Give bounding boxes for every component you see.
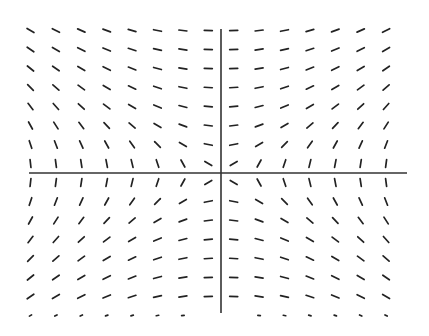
slope-segment — [53, 66, 60, 71]
slope-segment — [179, 219, 187, 222]
slope-segment — [103, 295, 110, 298]
slope-segment — [306, 257, 313, 260]
slope-segment — [103, 276, 110, 280]
slope-segment — [179, 199, 186, 203]
slope-segment — [306, 86, 313, 89]
slope-segment — [385, 141, 388, 148]
slope-segment — [105, 198, 109, 205]
slope-segment — [281, 123, 288, 127]
slope-segment — [55, 315, 57, 316]
slope-segment — [179, 142, 186, 146]
slope-segment — [154, 67, 162, 69]
slope-segment — [205, 180, 212, 184]
slope-segment — [360, 160, 361, 168]
slope-segment — [383, 104, 388, 110]
slope-segment — [306, 48, 314, 50]
slope-segment — [332, 48, 339, 51]
slope-segment — [255, 258, 263, 260]
slope-segment — [385, 315, 387, 316]
slope-segment — [128, 257, 135, 260]
slope-segment — [257, 179, 261, 186]
slope-segment — [333, 218, 338, 224]
slope-segment — [78, 295, 85, 299]
slope-segment — [53, 85, 59, 90]
slope-segment — [357, 275, 364, 279]
slope-segment — [383, 256, 389, 261]
slope-segment — [383, 275, 390, 280]
slope-segment — [383, 66, 390, 71]
slope-segment — [53, 104, 58, 110]
slope-segment — [129, 218, 135, 223]
slope-segment — [257, 160, 261, 167]
slope-segment — [281, 105, 288, 108]
slope-segment — [154, 296, 162, 298]
slope-segment — [255, 296, 263, 297]
slope-segment — [30, 160, 31, 168]
slope-segment — [106, 160, 107, 168]
slope-segment — [179, 124, 187, 127]
slope-segment — [154, 276, 162, 278]
slope-segment — [130, 141, 135, 148]
slope-segment — [103, 29, 111, 32]
slope-segment — [281, 30, 289, 32]
slope-segment — [131, 315, 133, 316]
slope-segment — [179, 296, 187, 297]
slope-segment — [333, 198, 337, 205]
slope-segment — [53, 237, 58, 243]
slope-segment — [332, 276, 339, 280]
slope-segment — [103, 67, 110, 71]
slope-segment — [383, 85, 389, 90]
slope-segment — [306, 276, 313, 279]
slope-segment — [155, 199, 161, 205]
slope-segment — [384, 217, 388, 224]
slope-segment — [255, 124, 263, 127]
slope-segment — [204, 106, 212, 107]
slope-segment — [256, 199, 263, 203]
slope-segment — [281, 296, 289, 298]
slope-segment — [52, 294, 59, 298]
slope-segment — [154, 86, 162, 89]
slope-segment — [129, 123, 135, 128]
slope-segment — [29, 141, 32, 149]
slope-segment — [154, 105, 161, 108]
slope-segment — [281, 67, 289, 69]
slope-segment — [204, 87, 212, 88]
slope-segment — [332, 67, 339, 71]
slope-segment — [29, 217, 33, 224]
slope-segment — [255, 49, 263, 50]
slope-segment — [130, 198, 135, 205]
slope-segment — [358, 104, 364, 109]
slope-segment — [359, 141, 362, 148]
slope-segment — [204, 201, 212, 203]
slope-segment — [230, 106, 238, 107]
slope-segment — [128, 29, 136, 31]
slope-segment — [106, 315, 108, 316]
slope-segment — [360, 315, 362, 316]
slope-segment — [103, 256, 110, 260]
slope-segment — [106, 179, 107, 187]
slope-segment — [55, 179, 56, 187]
slope-segment — [55, 160, 56, 168]
slope-segment — [129, 237, 136, 241]
slope-segment — [78, 66, 85, 70]
slope-segment — [283, 315, 285, 316]
slope-segment — [230, 201, 238, 203]
slope-segment — [131, 179, 133, 187]
slope-segment — [104, 237, 110, 242]
slope-segment — [105, 141, 109, 148]
slope-segment — [358, 122, 363, 128]
slope-segment — [28, 236, 33, 242]
slope-segment — [230, 144, 238, 146]
slope-segment — [128, 67, 135, 70]
slope-segment — [79, 122, 84, 128]
slope-segment — [357, 29, 364, 32]
slope-segment — [360, 179, 361, 187]
slope-segment — [332, 237, 338, 242]
slope-segment — [256, 142, 263, 146]
slope-segment — [78, 237, 84, 242]
slope-segment — [332, 295, 339, 298]
slope-segment — [78, 256, 84, 261]
slope-segment — [103, 85, 110, 89]
slope-segment — [306, 104, 313, 108]
slope-segment — [357, 66, 364, 70]
